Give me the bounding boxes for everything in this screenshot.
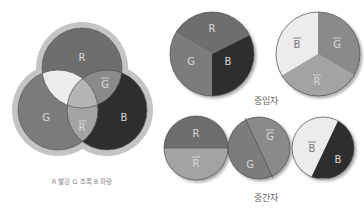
venn-label-blue: B [121,112,128,123]
baryon-label-g: G [187,56,195,67]
baryon-antiquark-circle [270,0,364,110]
meson-group: R R G G B B 중간자 [160,110,364,203]
meson-1-quark-label: R [193,128,200,139]
venn-diagram: R G B G R R 빨강 G 초록 B 파랑 [12,22,153,186]
meson-1-antiquark-label: R [193,158,200,169]
meson-circle-green [220,110,300,190]
baryon-label-anti-b: B [294,39,301,50]
venn-label-anti-red: R [79,122,86,133]
baryon-label-r: R [209,23,216,34]
baryon-caption: 중입자 [254,95,279,106]
venn-label-red: R [79,52,86,63]
meson-2-antiquark-label: G [266,131,274,142]
baryon-quark-circle [160,0,260,110]
half-red [160,110,240,148]
venn-legend: R 빨강 G 초록 B 파랑 [52,177,112,186]
meson-3-quark-label: B [335,154,342,165]
meson-2-quark-label: G [246,159,254,170]
meson-circle-blue [290,110,364,179]
baryon-label-b: B [225,56,232,67]
meson-3-antiquark-label: B [309,143,316,154]
baryon-label-anti-g: G [333,39,341,50]
color-charge-diagram: R G B G R R 빨강 G 초록 B 파랑 R G B [0,0,364,216]
baryon-label-anti-r: R [314,76,321,87]
half-anti-red [160,148,240,188]
venn-label-anti-green: G [101,79,109,90]
baryon-group: R G B B G R 중입자 [160,0,364,110]
meson-caption: 중간자 [254,193,279,203]
venn-label-green: G [42,112,50,123]
